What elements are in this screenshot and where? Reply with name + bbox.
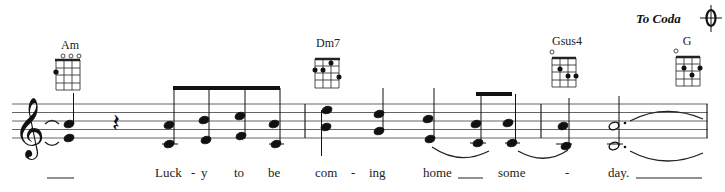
lyric-some: some [498, 165, 525, 181]
score-canvas: 𝄞 𝄽 [0, 0, 725, 192]
lyric-hyphen: - [565, 165, 569, 181]
lyric-home: home [423, 165, 452, 181]
lyric-y: y [201, 165, 208, 181]
tie-in-lower [45, 142, 59, 146]
lyric-luck: Luck [155, 165, 182, 181]
chord-diagram-am [53, 54, 81, 90]
lyric-day: day. [608, 165, 629, 181]
lyric-com: com [315, 165, 337, 181]
treble-clef-icon: 𝄞 [14, 97, 45, 160]
ties [432, 111, 703, 161]
lyric-be: be [268, 165, 280, 181]
lyric-ing: ing [369, 165, 386, 181]
chord-diagram-dm7 [313, 59, 342, 88]
coda-icon [700, 5, 722, 32]
chord-diagram-g [674, 49, 703, 86]
chord-diagram-gsus4 [550, 50, 579, 87]
lyric-to: to [234, 165, 244, 181]
svg-text:𝄽: 𝄽 [112, 108, 120, 138]
lyric-hyphen: - [191, 165, 195, 181]
lyric-hyphen: - [351, 165, 355, 181]
